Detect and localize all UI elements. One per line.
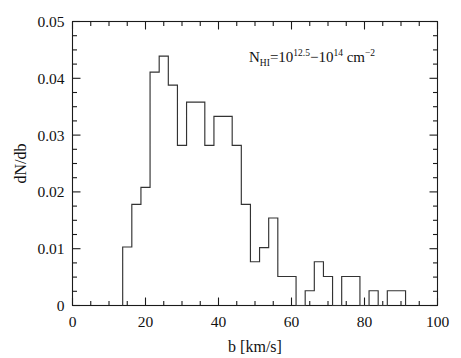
x-tick-label: 60	[284, 313, 300, 330]
annotation-column-density: NHI=1012.5−1014 cm−2	[249, 48, 375, 68]
y-tick-label: 0.03	[37, 127, 64, 144]
x-tick-label: 40	[211, 313, 227, 330]
figure-root: 02040608010000.010.020.030.040.05b [km/s…	[0, 0, 461, 358]
y-tick-label: 0.04	[37, 70, 64, 87]
y-tick-label: 0.05	[37, 13, 64, 30]
x-tick-label: 0	[69, 313, 77, 330]
x-tick-label: 80	[357, 313, 373, 330]
y-tick-label: 0	[57, 297, 65, 314]
y-axis-title: dN/db	[12, 144, 29, 184]
x-tick-label: 100	[426, 313, 450, 330]
y-tick-label: 0.02	[37, 183, 64, 200]
histogram-step-line	[123, 56, 406, 305]
x-axis-title: b [km/s]	[228, 338, 282, 355]
y-tick-label: 0.01	[37, 240, 64, 257]
x-tick-label: 20	[138, 313, 154, 330]
histogram-plot: 02040608010000.010.020.030.040.05b [km/s…	[0, 0, 461, 358]
